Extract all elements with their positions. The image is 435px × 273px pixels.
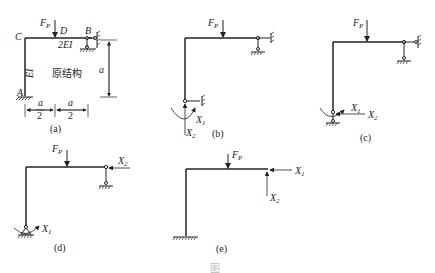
panel-d: X2 FP X1 (d) xyxy=(14,143,130,254)
x2-label: X2 xyxy=(185,127,196,140)
load-label: FP xyxy=(51,143,63,156)
x1-label: X1 xyxy=(294,165,305,178)
panel-b: FP X1 X2 (b) xyxy=(171,17,274,140)
half-span-numerator-2: a xyxy=(68,97,73,108)
original-structure-label: 原结构 xyxy=(52,67,82,79)
x2-label: X2 xyxy=(367,109,378,122)
panel-e-caption: (e) xyxy=(216,243,227,255)
figure-canvas: FP C D B A 2EI EI 原结构 a a 2 a 2 (a) xyxy=(0,0,435,273)
node-a-label: A xyxy=(16,87,24,98)
panel-c: FP X1 X2 xyxy=(320,17,421,126)
load-label: FP xyxy=(39,17,51,30)
beam-stiffness-label: 2EI xyxy=(58,39,73,50)
panel-e: FP X1 X2 (e) xyxy=(173,149,305,255)
panel-a-caption: (a) xyxy=(50,123,61,135)
load-label: FP xyxy=(231,149,243,162)
panel-c-caption: (c) xyxy=(360,132,371,144)
node-d-label: D xyxy=(59,25,68,36)
panel-a: FP C D B A 2EI EI 原结构 a a 2 a 2 (a) xyxy=(15,17,117,135)
panel-d-caption: (d) xyxy=(54,242,66,254)
x1-label: X1 xyxy=(41,223,52,236)
figure-caption: 图 xyxy=(210,263,220,273)
column-stiffness-label: EI xyxy=(24,68,35,79)
half-span-numerator-1: a xyxy=(38,97,43,108)
node-c-label: C xyxy=(15,31,22,42)
moment-arrow-x1 xyxy=(171,108,195,119)
x1-label: X1 xyxy=(350,102,361,115)
x2-label: X2 xyxy=(117,155,128,168)
height-label: a xyxy=(99,64,104,75)
half-span-denominator-1: 2 xyxy=(37,110,42,121)
x2-label: X2 xyxy=(269,192,280,205)
load-label: FP xyxy=(352,17,364,30)
half-span-denominator-2: 2 xyxy=(68,110,73,121)
node-b-label: B xyxy=(85,25,91,36)
x1-label: X1 xyxy=(195,114,206,127)
panel-b-caption: (b) xyxy=(212,128,224,140)
load-label: FP xyxy=(207,17,219,30)
